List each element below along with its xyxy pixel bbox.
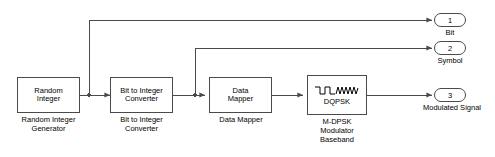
block-m-dpsk-modulator[interactable]: DQPSK — [307, 75, 367, 115]
block-diagram-canvas: Random Integer Random Integer Generator … — [0, 0, 495, 157]
port-bit[interactable]: 1 — [434, 13, 466, 27]
block-bit-to-integer-converter-label: Bit to Integer Converter — [120, 87, 163, 104]
block-random-integer-label: Random Integer — [34, 87, 62, 104]
block-data-mapper[interactable]: Data Mapper — [209, 77, 272, 113]
block-m-dpsk-modulator-label: DQPSK — [324, 98, 350, 106]
caption-bit-to-integer-converter: Bit to Integer Converter — [95, 115, 188, 133]
port-bit-number: 1 — [448, 16, 452, 25]
port-symbol-caption: Symbol — [424, 56, 476, 65]
block-bit-to-integer-converter[interactable]: Bit to Integer Converter — [110, 77, 173, 113]
caption-random-integer: Random Integer Generator — [2, 115, 95, 133]
block-random-integer[interactable]: Random Integer — [17, 77, 80, 113]
port-symbol-number: 2 — [448, 44, 452, 53]
port-bit-caption: Bit — [424, 28, 476, 37]
port-modulated-signal-number: 3 — [448, 91, 452, 100]
port-modulated-signal-caption: Modulated Signal — [412, 103, 492, 112]
caption-m-dpsk-modulator: M-DPSK Modulator Baseband — [292, 117, 382, 144]
port-symbol[interactable]: 2 — [434, 41, 466, 55]
block-data-mapper-label: Data Mapper — [228, 87, 253, 104]
port-modulated-signal[interactable]: 3 — [434, 88, 466, 102]
square-to-sine-wave-icon — [314, 84, 360, 98]
caption-data-mapper: Data Mapper — [195, 115, 287, 124]
